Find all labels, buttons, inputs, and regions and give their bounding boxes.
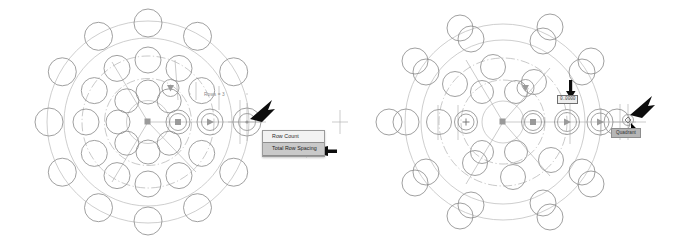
pointer-arrow-to-osnap bbox=[630, 96, 655, 118]
panel-after-state: 0.0000 Quadrant bbox=[338, 0, 675, 241]
row-count-grip bbox=[175, 119, 181, 125]
row-spacing-input[interactable]: 0.0000 bbox=[557, 95, 578, 104]
base-point-grip bbox=[145, 119, 151, 125]
row-count-grip bbox=[530, 119, 536, 125]
quadrant-osnap-tooltip: Quadrant bbox=[611, 128, 641, 138]
menu-item-total-row-spacing[interactable]: Total Row Spacing bbox=[263, 142, 324, 155]
grip-context-menu[interactable]: Row Count Total Row Spacing bbox=[262, 130, 325, 157]
row-spacing-input-value: 0.0000 bbox=[560, 97, 575, 102]
quadrant-osnap-tooltip-label: Quadrant bbox=[616, 131, 636, 136]
pointer-arrow-to-grip bbox=[250, 100, 275, 122]
panel-before-state: Rows = 3 Row Count Total Row Spacing bbox=[0, 0, 337, 241]
base-point-grip bbox=[500, 119, 506, 125]
left-array-drawing bbox=[0, 0, 337, 241]
item-count-grip bbox=[207, 119, 214, 126]
screenshot-canvas: Rows = 3 Row Count Total Row Spacing bbox=[0, 0, 675, 241]
level-grip bbox=[167, 85, 174, 92]
rows-dimension-label: Rows = 3 bbox=[204, 93, 225, 98]
menu-item-row-count[interactable]: Row Count bbox=[263, 131, 324, 142]
right-array-drawing bbox=[338, 0, 675, 241]
